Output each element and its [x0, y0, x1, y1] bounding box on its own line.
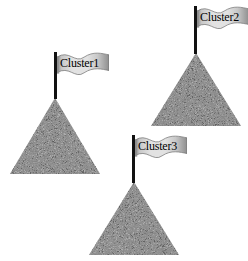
cluster-label-3: Cluster3 — [138, 140, 177, 152]
mountain-triangle-3 — [89, 182, 179, 255]
mountain-triangle-2 — [151, 53, 241, 126]
mountain-triangle-1 — [10, 98, 100, 174]
cluster-label-2: Cluster2 — [200, 11, 239, 23]
cluster-diagram-canvas: Cluster1 Cluster2 Cluster3 — [0, 0, 248, 261]
cluster-label-1: Cluster1 — [60, 57, 99, 69]
